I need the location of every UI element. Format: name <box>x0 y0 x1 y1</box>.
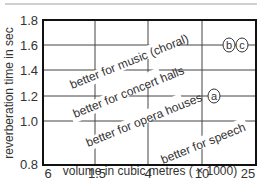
y-tick: 1.2 <box>20 89 38 104</box>
reverberation-chart: 1.8 1.6 1.4 1.2 1.0 0.8 6 1.5 4 10 25 vo… <box>0 0 264 179</box>
y-tick: 1.0 <box>20 114 38 129</box>
point-b: b <box>223 38 235 52</box>
y-axis-label: reverberation time in sec <box>2 27 16 158</box>
y-tick: 1.8 <box>20 13 38 28</box>
x-tick: 25 <box>241 166 255 179</box>
y-tick: 1.6 <box>20 38 38 53</box>
svg-text:a: a <box>211 90 218 102</box>
region-label-speech: better for speech <box>159 120 248 167</box>
point-c: c <box>236 38 248 52</box>
x-tick: 6 <box>44 166 51 179</box>
point-a: a <box>208 89 220 103</box>
svg-text:b: b <box>226 39 232 51</box>
y-tick: 0.8 <box>20 157 38 172</box>
x-axis-label: volume in cubic metres ( × 1000) <box>63 164 237 178</box>
svg-text:c: c <box>239 39 245 51</box>
y-tick: 1.4 <box>20 63 38 78</box>
